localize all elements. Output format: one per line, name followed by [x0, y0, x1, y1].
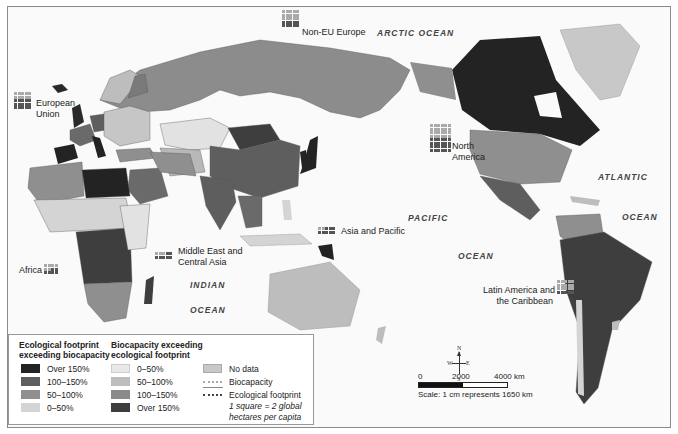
swatch — [21, 377, 40, 386]
legend-item: 50–100% — [111, 376, 173, 387]
divider — [203, 387, 223, 388]
ocean-label-atlantic-2: OCEAN — [622, 212, 658, 222]
legend-item: Over 150% — [111, 402, 180, 413]
region-label-asia-pacific: Asia and Pacific — [341, 226, 405, 237]
legend-item: 100–150% — [111, 389, 178, 400]
turkey — [116, 148, 156, 162]
eastern-europe — [104, 106, 150, 146]
region-label-eu: European Union — [36, 98, 75, 120]
swatch — [111, 377, 130, 386]
swatch — [111, 364, 130, 373]
papua-new-guinea — [318, 244, 334, 260]
scale-bar: 0 2000 4000 km Scale: 1 cm represents 16… — [418, 372, 548, 399]
philippines — [282, 200, 292, 220]
legend-item-no-data: No data — [203, 363, 259, 374]
legend-group1-title: Ecological footprint exceeding biocapaci… — [19, 340, 110, 360]
italy — [92, 136, 106, 158]
swatch — [111, 403, 130, 412]
saudi-arabia — [128, 168, 168, 204]
ocean-label-pacific: PACIFIC — [408, 213, 448, 223]
middle-east-squares-icon — [155, 252, 172, 259]
central-africa — [76, 228, 132, 284]
caribbean — [570, 196, 600, 206]
asia-pacific-squares-icon — [318, 227, 335, 234]
india — [200, 176, 236, 230]
region-label-latin-america: Latin America and the Caribbean — [483, 285, 553, 307]
swatch — [21, 403, 40, 412]
ocean-label-indian: INDIAN — [190, 280, 225, 290]
ocean-label-indian-2: OCEAN — [190, 305, 226, 315]
biocapacity-squares-icon — [203, 381, 222, 383]
se-asia — [238, 196, 262, 228]
south-america — [560, 232, 652, 404]
legend-item: 0–50% — [21, 402, 73, 413]
legend-item: 100–150% — [21, 376, 88, 387]
libya-egypt — [82, 168, 130, 198]
alaska — [410, 62, 456, 100]
swatch — [21, 364, 40, 373]
swatch — [21, 390, 40, 399]
region-label-non-eu-europe: Non-EU Europe — [302, 27, 366, 38]
non-eu-europe-squares-icon — [282, 10, 299, 27]
russia — [100, 40, 410, 118]
france — [70, 124, 96, 146]
southern-africa — [84, 282, 132, 322]
australia — [268, 262, 360, 330]
africa-squares-icon — [44, 264, 58, 274]
new-zealand — [376, 326, 386, 344]
kazakhstan — [160, 118, 230, 150]
legend-item-biocapacity: Biocapacity — [203, 376, 272, 387]
footprint-squares-icon — [203, 394, 222, 396]
legend-note: 1 square = 2 global hectares per capita — [229, 401, 302, 423]
ocean-label-atlantic: ATLANTIC — [598, 172, 648, 182]
eu-footprint-squares-icon — [14, 92, 31, 109]
scale-caption: Scale: 1 cm represents 1650 km — [418, 390, 548, 399]
legend-item: 50–100% — [21, 389, 83, 400]
ocean-label-pacific-2: OCEAN — [458, 251, 494, 261]
region-label-africa: Africa — [19, 265, 42, 276]
swatch — [111, 390, 130, 399]
scale-bar-graphic — [418, 382, 508, 388]
region-label-north-america: North America — [452, 141, 485, 163]
swatch — [203, 364, 222, 373]
germany — [90, 114, 106, 132]
spain — [54, 144, 78, 164]
legend-item: Over 150% — [21, 363, 90, 374]
madagascar — [144, 276, 154, 304]
iceland — [52, 84, 68, 93]
map-legend: Ecological footprint exceeding biocapaci… — [8, 334, 314, 425]
region-label-middle-east: Middle East and Central Asia — [178, 246, 243, 268]
legend-item: 0–50% — [111, 363, 163, 374]
north-africa-west — [28, 162, 84, 204]
indonesia — [240, 234, 312, 246]
legend-item-footprint: Ecological footprint — [203, 389, 301, 400]
sahel — [34, 198, 132, 232]
north-america-squares-icon — [430, 124, 451, 152]
ocean-label-arctic: ARCTIC OCEAN — [377, 28, 454, 38]
greenland — [560, 24, 640, 100]
latin-america-squares-icon — [557, 280, 574, 294]
legend-group2-title: Biocapacity exceeding ecological footpri… — [111, 340, 203, 360]
